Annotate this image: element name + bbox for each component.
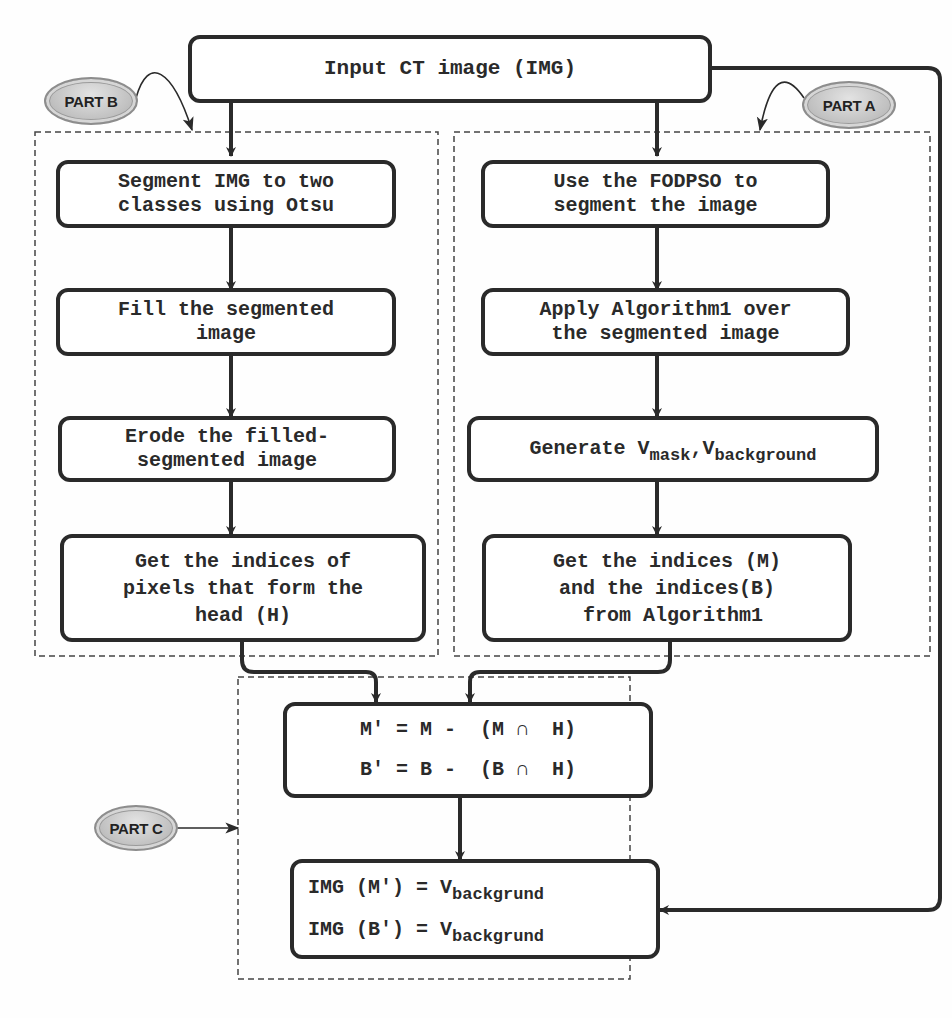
step-line: segmented image [137,449,317,473]
background-subscript: background [714,446,816,465]
mask-subscript: mask [650,446,691,465]
b-prime-equation: B' = B - (B ∩ H) [360,750,576,790]
part-b-badge: PART B [44,77,138,125]
fodpso-segmentation-step: Use the FODPSO to segment the image [481,160,830,228]
step-line: the segmented image [551,322,779,346]
assign-prefix: IMG (B') = V [308,918,452,941]
step-line: pixels that form the [123,575,363,602]
step-line: Segment IMG to two [118,170,334,194]
fill-segmented-step: Fill the segmented image [56,288,396,356]
background-assignment-step: IMG (M') = Vbackgrund IMG (B') = Vbackgr… [290,859,660,959]
head-indices-step: Get the indices of pixels that form the … [60,534,426,642]
step-line: Get the indices (M) [553,548,781,575]
step-line: Fill the segmented [118,298,334,322]
part-a-badge: PART A [802,81,896,129]
step-line: segment the image [553,194,757,218]
mask-background-indices-step: Get the indices (M) and the indices(B) f… [482,534,852,642]
backgrund-subscript: backgrund [452,927,544,946]
part-c-badge: PART C [94,805,178,851]
otsu-segmentation-step: Segment IMG to two classes using Otsu [56,160,396,228]
step-line: from Algorithm1 [571,602,763,629]
set-difference-step: M' = M - (M ∩ H) B' = B - (B ∩ H) [283,702,653,798]
backgrund-subscript: backgrund [452,885,544,904]
assign-prefix: IMG (M') = V [308,876,452,899]
img-b-prime-assignment: IMG (B') = Vbackgrund [308,909,544,951]
input-ct-image-node: Input CT image (IMG) [188,35,712,103]
step-line: Erode the filled- [125,425,329,449]
step-line: head (H) [195,602,291,629]
apply-algorithm1-step: Apply Algorithm1 over the segmented imag… [481,288,850,356]
flowchart-canvas: PART B PART A PART C Input CT image (IMG… [0,0,952,1018]
m-prime-equation: M' = M - (M ∩ H) [360,710,576,750]
step-line: Apply Algorithm1 over [539,298,791,322]
step-line: and the indices(B) [559,575,775,602]
step-line: Use the FODPSO to [553,170,757,194]
step-line: image [196,322,256,346]
erode-filled-step: Erode the filled- segmented image [58,416,396,482]
generate-mid: ,V [690,437,714,460]
step-line: Generate Vmask,Vbackground [530,437,817,461]
input-node-label: Input CT image (IMG) [324,56,576,81]
generate-prefix: Generate V [530,437,650,460]
img-m-prime-assignment: IMG (M') = Vbackgrund [308,867,544,909]
generate-vmask-vbackground-step: Generate Vmask,Vbackground [467,416,879,482]
step-line: classes using Otsu [118,194,334,218]
step-line: Get the indices of [135,548,351,575]
